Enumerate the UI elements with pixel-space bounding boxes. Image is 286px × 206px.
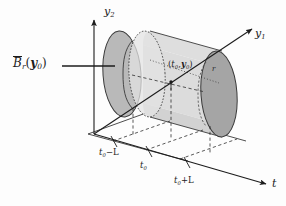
dash-base-t0plusL (180, 139, 237, 159)
tick-label-t0-plus-L: t0+L (174, 176, 194, 185)
tick-label-t0: t0 (140, 161, 147, 170)
axis-label-y2: y2 (104, 6, 115, 17)
center-point-label: (t0,y0) (168, 60, 193, 69)
t-axis-ticks (111, 136, 190, 168)
dash-base-t0minusL (113, 121, 170, 141)
axis-label-y1: y1 (255, 28, 266, 39)
tick-t0plusL (184, 157, 190, 168)
figure-cylinder-diagram: y2 y1 t Br(y0) (t0,y0) r t0−L t0 t0+L (0, 0, 286, 206)
diagram-canvas (0, 0, 286, 206)
tick-label-t0-minus-L: t0−L (99, 148, 119, 157)
radius-label: r (212, 66, 215, 73)
base-left-edge (88, 113, 146, 134)
dash-base-t0 (146, 130, 203, 150)
axis-label-t: t (272, 178, 276, 189)
closed-ball-label: Br(y0) (13, 56, 47, 69)
